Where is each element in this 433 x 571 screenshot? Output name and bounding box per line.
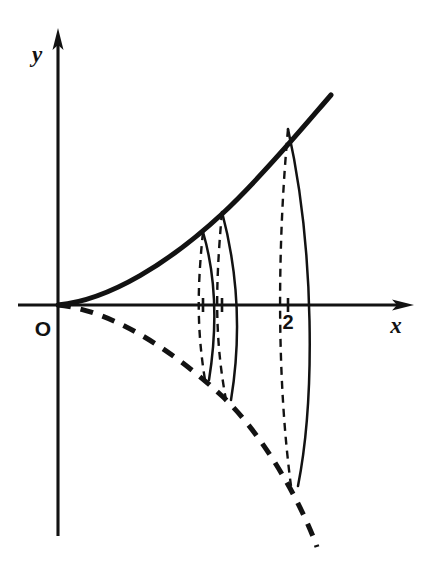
- tick-label-2: 2: [282, 311, 293, 333]
- disk-3-back-arc: [280, 129, 291, 486]
- generating-curve-solid: [58, 95, 331, 305]
- figure-container: y x O 2: [0, 0, 433, 571]
- generating-curve-dashed: [58, 305, 317, 547]
- disk-3-front-arc: [288, 129, 310, 486]
- origin-label: O: [35, 317, 51, 340]
- y-axis-label: y: [29, 42, 43, 67]
- revolution-disk-3: [280, 129, 310, 486]
- y-axis-group: [53, 28, 64, 536]
- x-axis-label: x: [389, 313, 402, 338]
- math-figure-svg: y x O 2: [0, 0, 433, 571]
